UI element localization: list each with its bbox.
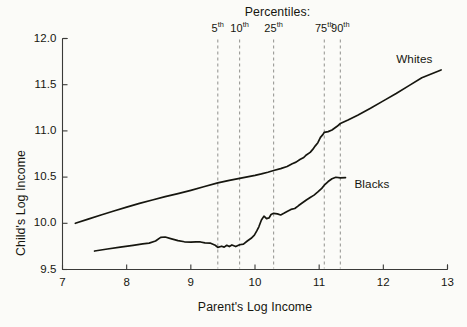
- percentile-label-90th: 90th: [323, 22, 357, 34]
- chart-figure: 12.011.511.010.510.09.578910111213Child'…: [0, 0, 467, 327]
- y-tick-label-11.5: 11.5: [23, 78, 57, 90]
- percentiles-title: Percentiles:: [207, 5, 347, 19]
- x-tick-label-9: 9: [179, 276, 203, 288]
- x-axis-label: Parent's Log Income: [135, 300, 375, 314]
- series-label-blacks: Blacks: [354, 177, 389, 190]
- series-line-whites: [75, 70, 441, 223]
- x-tick-label-12: 12: [371, 276, 395, 288]
- percentile-label-25th: 25th: [257, 22, 291, 34]
- x-tick-label-7: 7: [51, 276, 75, 288]
- x-tick-label-8: 8: [115, 276, 139, 288]
- series-label-whites: Whites: [396, 52, 432, 65]
- series-line-blacks: [95, 177, 346, 251]
- percentile-label-10th: 10th: [223, 22, 257, 34]
- y-tick-label-11.0: 11.0: [23, 124, 57, 136]
- x-tick-label-10: 10: [243, 276, 267, 288]
- y-tick-label-9.5: 9.5: [23, 263, 57, 275]
- x-tick-label-13: 13: [436, 276, 460, 288]
- y-axis-label: Child's Log Income: [14, 150, 28, 256]
- y-tick-label-12.0: 12.0: [23, 32, 57, 44]
- x-tick-label-11: 11: [307, 276, 331, 288]
